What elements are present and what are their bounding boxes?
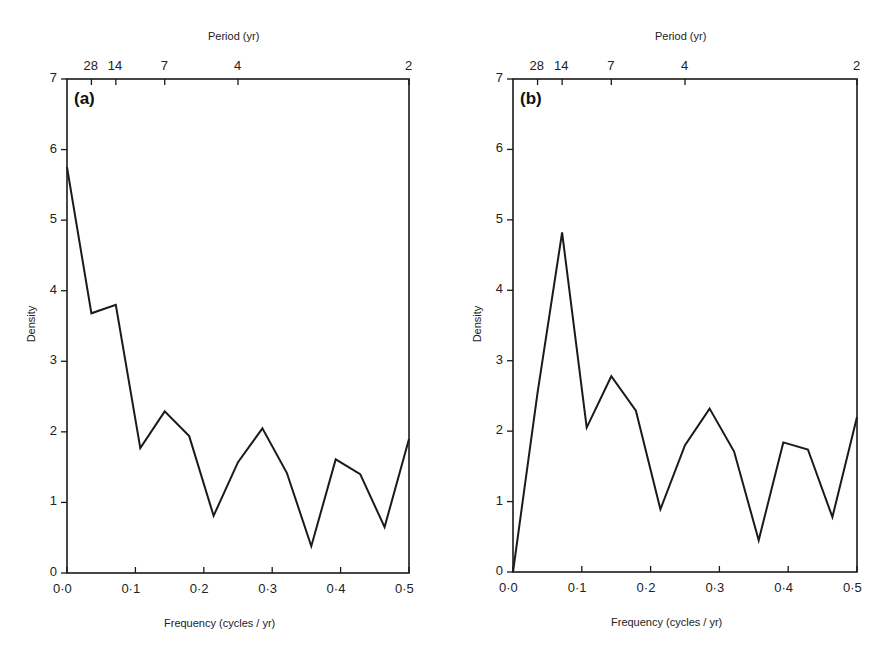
period-tick-label: 14: [554, 58, 568, 73]
y-tick-label: 4: [487, 281, 503, 296]
x-axis-ticks: [513, 566, 857, 572]
density-line: [513, 233, 857, 573]
chart-panel-b: Period (yr) Frequency (cycles / yr) Dens…: [0, 0, 889, 654]
x-tick-label: 0·4: [774, 580, 793, 595]
x-tick-label: 0·3: [705, 580, 724, 595]
plot-frame: [513, 79, 857, 572]
period-axis-ticks: [538, 79, 857, 85]
x-tick-label: 0·1: [568, 580, 587, 595]
period-tick-label: 7: [607, 58, 614, 73]
y-tick-label: 1: [487, 493, 503, 508]
density-axis-title: Density: [471, 294, 483, 354]
x-tick-label: 0·5: [843, 580, 862, 595]
x-tick-label: 0·0: [499, 580, 518, 595]
x-tick-label: 0·2: [637, 580, 656, 595]
y-tick-label: 3: [487, 352, 503, 367]
frequency-axis-title: Frequency (cycles / yr): [611, 616, 722, 628]
y-tick-label: 6: [487, 140, 503, 155]
period-axis-title: Period (yr): [655, 30, 706, 42]
period-tick-label: 4: [681, 58, 688, 73]
y-tick-label: 7: [487, 70, 503, 85]
period-tick-label: 28: [530, 58, 544, 73]
y-tick-label: 2: [487, 422, 503, 437]
panel-label: (b): [520, 89, 542, 109]
y-axis-ticks: [507, 79, 513, 572]
y-tick-label: 5: [487, 211, 503, 226]
period-tick-label: 2: [853, 58, 860, 73]
y-tick-label: 0: [487, 563, 503, 578]
plot-area-b: [0, 0, 889, 654]
